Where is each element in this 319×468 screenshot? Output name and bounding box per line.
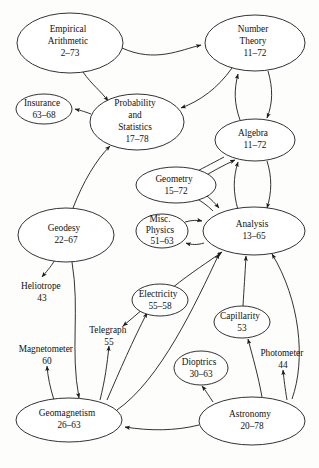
- edge-electricity-to-analysis: [172, 252, 222, 288]
- edge-geodesy-to-geomagnetism: [72, 262, 79, 398]
- node-probability-statistics[interactable]: Probability and Statistics 17–78: [90, 94, 184, 150]
- node-analysis[interactable]: Analysis 13–65: [203, 207, 305, 255]
- node-capillarity[interactable]: Capillarity 53: [214, 306, 270, 338]
- edge-astronomy-to-dioptrics: [202, 386, 213, 402]
- edge-geodesy-to-heliotrope: [42, 260, 55, 277]
- edge-astronomy-to-geomagnetism: [125, 425, 199, 430]
- edge-analysis-to-misc-physics: [186, 243, 204, 245]
- edge-empirical-to-probability: [83, 72, 108, 101]
- edge-probability-to-insurance: [75, 109, 91, 114]
- edge-misc-physics-to-analysis: [185, 220, 202, 222]
- edge-empirical-to-number-theory: [122, 45, 201, 55]
- network-diagram: Empirical Arithmetic 2–73 Number Theory …: [0, 0, 319, 468]
- edge-geomagnetism-to-magnetometer: [47, 366, 54, 400]
- node-shape-geometry[interactable]: [136, 167, 216, 203]
- edge-number-theory-to-probability: [181, 68, 232, 108]
- node-text-misc-physics: Misc. Physics 51–63: [146, 210, 178, 246]
- edge-algebra-to-analysis: [267, 161, 271, 208]
- node-dioptrics[interactable]: Dioptrics 30–63: [174, 351, 228, 385]
- edge-analysis-to-algebra: [234, 162, 238, 210]
- node-algebra[interactable]: Algebra 11–72: [215, 119, 295, 161]
- edge-astronomy-to-photometer: [283, 370, 287, 400]
- edge-geomagnetism-to-telegraph: [100, 346, 109, 400]
- node-empirical-arithmetic[interactable]: Empirical Arithmetic 2–73: [17, 13, 123, 73]
- edge-geomagnetism-to-analysis: [117, 254, 219, 410]
- node-misc-physics[interactable]: Misc. Physics 51–63: [136, 210, 188, 248]
- edge-astronomy-to-analysis: [272, 254, 299, 399]
- node-number-theory[interactable]: Number Theory 11–72: [205, 15, 305, 71]
- node-astronomy[interactable]: Astronomy 20–78: [199, 397, 305, 445]
- node-layer: Empirical Arithmetic 2–73 Number Theory …: [16, 13, 305, 445]
- node-geometry[interactable]: Geometry 15–72: [136, 167, 216, 203]
- edge-number-theory-to-algebra: [267, 71, 272, 118]
- node-geomagnetism[interactable]: Geomagnetism 26–63: [16, 398, 122, 442]
- label-magnetometer: Magnetometer 60: [19, 344, 76, 366]
- node-electricity[interactable]: Electricity 55–58: [132, 284, 188, 316]
- diagram-canvas: Empirical Arithmetic 2–73 Number Theory …: [0, 0, 319, 468]
- label-heliotrope: Heliotrope 43: [21, 281, 63, 303]
- node-insurance[interactable]: Insurance 63–68: [16, 94, 72, 124]
- node-geodesy[interactable]: Geodesy 22–67: [18, 208, 114, 262]
- edge-algebra-to-number-theory: [235, 74, 240, 120]
- edge-geodesy-to-probability: [73, 146, 110, 208]
- edge-capillarity-to-analysis: [243, 256, 246, 306]
- label-telegraph: Telegraph 55: [89, 325, 128, 347]
